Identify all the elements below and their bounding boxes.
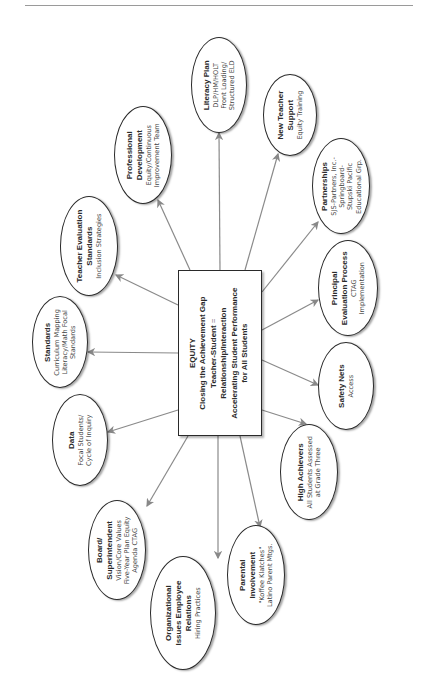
node-partnerships: Partnerships SJS-Partners, Inc.- Springb… (312, 138, 370, 234)
arrow-teacher-eval (116, 275, 178, 305)
node-title: Standards (85, 210, 95, 283)
node-detail: Cycle of Inquiry (85, 414, 93, 466)
node-parental-involvement: Parental Involvement "Koffee Klatches" L… (227, 525, 285, 625)
node-board-superintendent: Board/ Superintendent Vision/Core Values… (88, 500, 146, 600)
node-title: Professional (125, 123, 135, 187)
arrow-partnerships (262, 222, 318, 292)
node-teacher-evaluation: Teacher Evaluation Standards Inclusion S… (60, 196, 118, 296)
node-detail: Focal Students/ (77, 414, 85, 466)
node-detail: Five-Year Plan Equity (123, 516, 131, 584)
node-title: Literacy Plan (202, 60, 212, 110)
node-detail: "Koffee Klatches" (258, 543, 266, 607)
node-safety-nets: Safety Nets Access (318, 342, 374, 430)
node-detail: Access (347, 364, 355, 408)
node-detail: Vision/Core Values (115, 516, 123, 584)
arrow-high-achievers (262, 410, 306, 424)
node-professional-development: Professional Development Equity/Continuo… (114, 106, 172, 204)
node-data: Data Focal Students/ Cycle of Inquiry (52, 394, 108, 486)
node-high-achievers: High Achievers All Students Assessed at … (280, 424, 338, 520)
node-detail: CTAG (350, 251, 358, 325)
node-literacy-plan: Literacy Plan DLP/HM/HOLT Front Loading/… (191, 37, 247, 133)
node-detail: DLP/HM/HOLT (212, 60, 220, 110)
arrow-principal-eval (262, 300, 318, 330)
node-title: Data (67, 414, 77, 466)
node-detail: Front Loading/ (220, 60, 228, 110)
arrow-prof-dev (158, 200, 190, 270)
node-title: Superintendent (105, 516, 115, 584)
arrow-safety-nets (262, 360, 318, 385)
center-line: Relationship/Interaction (220, 287, 230, 418)
node-title: Standards (43, 309, 53, 376)
node-detail: Inclusion Strategies (95, 210, 103, 283)
node-title: Evaluation Process (340, 251, 350, 325)
node-detail: Stupski Pacific (346, 157, 354, 216)
node-detail: Equity Training (296, 91, 304, 140)
node-detail: Structured ELD (228, 60, 236, 110)
node-detail: Improvement Team (153, 123, 161, 187)
arrow-parental (240, 436, 260, 527)
node-title: Principal (330, 251, 340, 325)
node-title: Parental (238, 543, 248, 607)
center-line: for All Students (241, 287, 251, 418)
arrow-new-teacher (245, 154, 278, 270)
node-title: Teacher Evaluation (75, 210, 85, 283)
node-title: High Achievers (296, 436, 306, 508)
center-line: Closing the Achievement Gap (199, 287, 209, 418)
node-detail: Equity/Continuous (145, 123, 153, 187)
node-detail: Literacy/Math Focal (61, 309, 69, 376)
node-detail: Educational Grp. (354, 157, 362, 216)
center-line: Teacher-Student = (210, 287, 220, 418)
node-detail: Latino Parent Mtgs. (266, 543, 274, 607)
node-detail: Hiring Practices (194, 581, 202, 646)
node-title: Safety Nets (337, 364, 347, 408)
node-detail: Springboard- (338, 157, 346, 216)
central-equity-box: EQUITY Closing the Achievement Gap Teach… (178, 270, 262, 436)
equals-sign: = (210, 318, 219, 323)
node-principal-evaluation: Principal Evaluation Process CTAG Implem… (318, 240, 378, 336)
center-heading: EQUITY (189, 287, 199, 418)
node-title: Support (286, 91, 296, 140)
node-new-teacher-support: New Teacher Support Equity Training (263, 74, 317, 156)
node-detail: Standards (69, 309, 77, 376)
node-detail: Curriculum Mapping (53, 309, 61, 376)
node-title: Relations (184, 581, 194, 646)
node-title: Development (135, 123, 145, 187)
node-detail: Agenda CTAG (131, 516, 139, 584)
arrow-standards (88, 352, 178, 353)
node-standards: Standards Curriculum Mapping Literacy/Ma… (32, 296, 88, 388)
node-title: Issues Employee (174, 581, 184, 646)
node-title: Board/ (95, 516, 105, 584)
center-line: Accelerating Student Performance (230, 287, 240, 418)
node-detail: All Students Assessed (306, 436, 314, 508)
node-title: New Teacher (276, 91, 286, 140)
arrow-board (147, 436, 188, 506)
node-title: Partnerships (320, 157, 330, 216)
arrow-literacy-plan (219, 133, 220, 270)
node-detail: at Grade Three (314, 436, 322, 508)
node-organizational-issues: Organizational Issues Employee Relations… (150, 556, 216, 670)
arrow-data (108, 410, 178, 432)
node-title: Involvement (248, 543, 258, 607)
node-detail: Implementation (358, 251, 366, 325)
node-title: Organizational (164, 581, 174, 646)
node-detail: SJS-Partners, Inc.- (330, 157, 338, 216)
